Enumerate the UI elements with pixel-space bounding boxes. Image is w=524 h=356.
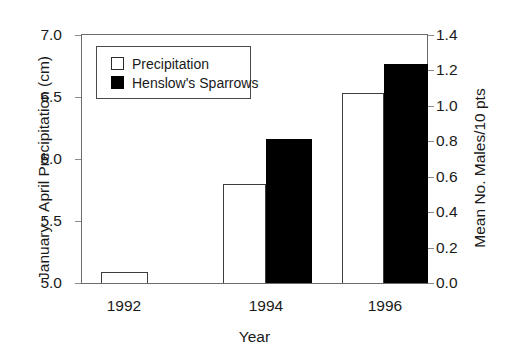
x-axis-label: Year bbox=[81, 328, 428, 346]
chart-figure: 7.0 6.5 6.0 5.5 5.0 1.4 1.2 1.0 0.8 0.6 … bbox=[0, 0, 524, 356]
legend-label-precipitation: Precipitation bbox=[132, 57, 209, 71]
tick-label-right-7: 0.0 bbox=[436, 275, 458, 291]
tick-label-right-0: 1.4 bbox=[436, 27, 458, 43]
legend-swatch-filled-square-icon bbox=[111, 76, 124, 89]
tick-mark-right bbox=[428, 248, 434, 249]
tick-label-right-2: 1.0 bbox=[436, 98, 458, 114]
tick-label-right-6: 0.2 bbox=[436, 240, 458, 256]
plot-area: Precipitation Henslow's Sparrows bbox=[81, 34, 428, 284]
y-axis-label-right: Mean No. Males/10 pts bbox=[471, 28, 489, 308]
bar-1996-henslow-s-sparrows bbox=[384, 64, 428, 284]
x-tick-label-1992: 1992 bbox=[79, 297, 169, 315]
tick-mark-right bbox=[428, 141, 434, 142]
tick-label-right-4: 0.6 bbox=[436, 169, 458, 185]
legend-item-henslows-sparrows: Henslow's Sparrows bbox=[111, 73, 250, 92]
tick-mark-right bbox=[428, 212, 434, 213]
tick-mark-right bbox=[428, 283, 434, 284]
tick-label-right-5: 0.4 bbox=[436, 204, 458, 220]
chart-legend: Precipitation Henslow's Sparrows bbox=[96, 46, 251, 99]
tick-mark-right bbox=[428, 70, 434, 71]
tick-mark-right bbox=[428, 35, 434, 36]
x-tick-label-1996: 1996 bbox=[340, 297, 430, 315]
legend-label-henslows-sparrows: Henslow's Sparrows bbox=[132, 76, 258, 90]
legend-item-precipitation: Precipitation bbox=[111, 54, 250, 73]
tick-mark-right bbox=[428, 177, 434, 178]
legend-swatch-open-square-icon bbox=[111, 57, 124, 70]
tick-label-right-3: 0.8 bbox=[436, 133, 458, 149]
tick-mark-right bbox=[428, 106, 434, 107]
x-axis-line bbox=[81, 283, 428, 284]
x-tick-label-1994: 1994 bbox=[221, 297, 311, 315]
bar-1996-precipitation bbox=[342, 93, 384, 284]
y-axis-label-left: January - April Precipitation (cm) bbox=[35, 28, 53, 308]
tick-label-right-1: 1.2 bbox=[436, 62, 458, 78]
bar-1994-henslow-s-sparrows bbox=[266, 139, 312, 284]
bar-1994-precipitation bbox=[223, 184, 266, 284]
